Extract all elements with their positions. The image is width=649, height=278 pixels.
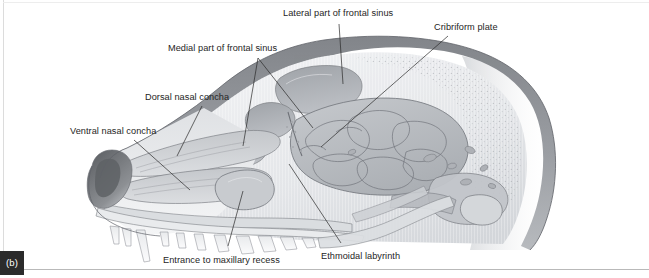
label-cribriform-plate: Cribriform plate	[434, 22, 498, 33]
skull-sagittal-illustration	[0, 0, 649, 278]
label-dorsal-nasal-concha: Dorsal nasal concha	[145, 92, 229, 103]
label-entrance-to-maxillary-recess: Entrance to maxillary recess	[163, 255, 280, 266]
label-ethmoidal-labyrinth: Ethmoidal labyrinth	[321, 251, 400, 262]
label-lateral-part-of-frontal-sinus: Lateral part of frontal sinus	[283, 8, 393, 19]
panel-letter-badge: (b)	[0, 251, 24, 275]
label-medial-part-of-frontal-sinus: Medial part of frontal sinus	[168, 43, 277, 54]
figure-panel-b: Lateral part of frontal sinus Cribriform…	[0, 0, 649, 278]
maxillary-recess-entrance-region	[215, 170, 274, 210]
label-ventral-nasal-concha: Ventral nasal concha	[70, 126, 156, 137]
caption-divider-rule	[0, 269, 649, 270]
